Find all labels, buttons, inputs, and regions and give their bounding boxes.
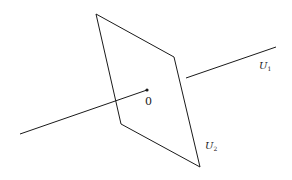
u2-label: U2 bbox=[205, 141, 217, 152]
u1-label-sub: 1 bbox=[267, 65, 271, 72]
origin-label-text: 0 bbox=[145, 95, 152, 108]
u1-label: U1 bbox=[259, 61, 271, 72]
origin-point bbox=[145, 88, 148, 91]
origin-label: 0 bbox=[145, 96, 152, 107]
u2-label-sub: 2 bbox=[213, 145, 217, 152]
diagram-canvas bbox=[0, 0, 292, 180]
